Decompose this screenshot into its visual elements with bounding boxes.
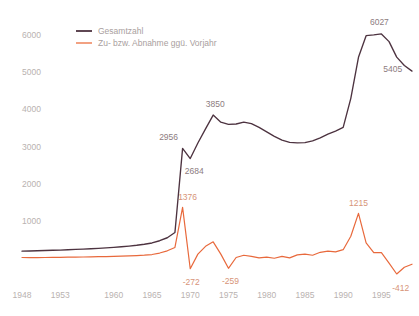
legend-item-gesamtzahl: Gesamtzahl — [76, 26, 143, 36]
data-label-5405: 5405 — [383, 64, 402, 74]
data-label-1376: 1376 — [178, 192, 197, 202]
data-label-2684: 2684 — [185, 166, 204, 176]
legend-label-zu-bzw-abnahme: Zu- bzw. Abnahme ggü. Vorjahr — [98, 38, 217, 48]
data-label-2956: 2956 — [159, 132, 178, 142]
data-point-labels: 295626843850602754051376-272-2591215-412 — [159, 17, 409, 293]
y-tick-3000: 3000 — [22, 142, 41, 152]
x-tick-1948: 1948 — [13, 290, 32, 300]
data-label--272: -272 — [183, 277, 200, 287]
x-tick-1980: 1980 — [257, 290, 276, 300]
data-label-6027: 6027 — [370, 17, 389, 27]
x-tick-1990: 1990 — [334, 290, 353, 300]
data-label--412: -412 — [392, 283, 409, 293]
x-tick-1995: 1995 — [372, 290, 391, 300]
y-tick-6000: 6000 — [22, 30, 41, 40]
y-axis-tick-labels: 100020003000400050006000 — [22, 30, 41, 226]
data-label-3850: 3850 — [206, 99, 225, 109]
chart-container: 100020003000400050006000 194819531960196… — [0, 0, 419, 316]
legend-item-zu-bzw-abnahme: Zu- bzw. Abnahme ggü. Vorjahr — [76, 38, 217, 48]
y-tick-1000: 1000 — [22, 216, 41, 226]
x-tick-1953: 1953 — [51, 290, 70, 300]
y-tick-2000: 2000 — [22, 179, 41, 189]
series-lines — [22, 34, 412, 274]
line-chart: 100020003000400050006000 194819531960196… — [0, 0, 419, 316]
x-tick-1965: 1965 — [143, 290, 162, 300]
x-tick-1970: 1970 — [181, 290, 200, 300]
x-tick-1985: 1985 — [295, 290, 314, 300]
x-axis-tick-labels: 1948195319601965197019751980198519901995 — [13, 290, 392, 300]
series-line-gesamtzahl — [22, 34, 412, 251]
x-tick-1975: 1975 — [219, 290, 238, 300]
series-line-zu-bzw-abnahme — [22, 207, 412, 274]
data-label-1215: 1215 — [349, 198, 368, 208]
data-label--259: -259 — [222, 276, 239, 286]
legend-label-gesamtzahl: Gesamtzahl — [98, 26, 143, 36]
y-tick-4000: 4000 — [22, 104, 41, 114]
y-tick-5000: 5000 — [22, 67, 41, 77]
chart-legend: Gesamtzahl Zu- bzw. Abnahme ggü. Vorjahr — [76, 26, 217, 48]
x-tick-1960: 1960 — [104, 290, 123, 300]
